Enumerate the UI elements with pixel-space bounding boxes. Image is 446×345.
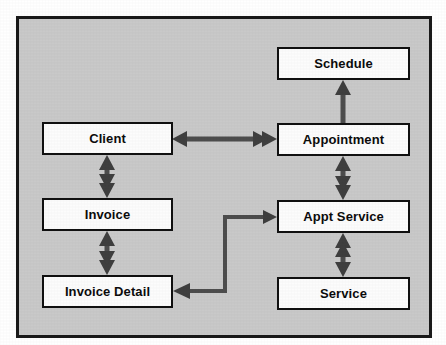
entity-label-appointment: Appointment <box>303 133 384 146</box>
entity-label-invoice: Invoice <box>85 208 131 221</box>
entity-box-client[interactable]: Client <box>42 122 173 155</box>
entity-box-appt-service[interactable]: Appt Service <box>277 200 410 233</box>
entity-label-client: Client <box>89 132 126 145</box>
entity-box-schedule[interactable]: Schedule <box>277 47 410 80</box>
entity-box-appointment[interactable]: Appointment <box>277 123 410 156</box>
entity-box-invoice[interactable]: Invoice <box>42 198 173 231</box>
entity-box-invoice-detail[interactable]: Invoice Detail <box>42 275 173 308</box>
entity-label-appt-service: Appt Service <box>303 210 384 223</box>
entity-box-service[interactable]: Service <box>277 277 410 310</box>
entity-label-invoice-detail: Invoice Detail <box>65 285 150 298</box>
entity-label-schedule: Schedule <box>314 57 373 70</box>
diagram-canvas: Schedule Client Appointment Invoice Appt… <box>0 0 446 345</box>
entity-label-service: Service <box>320 287 367 300</box>
